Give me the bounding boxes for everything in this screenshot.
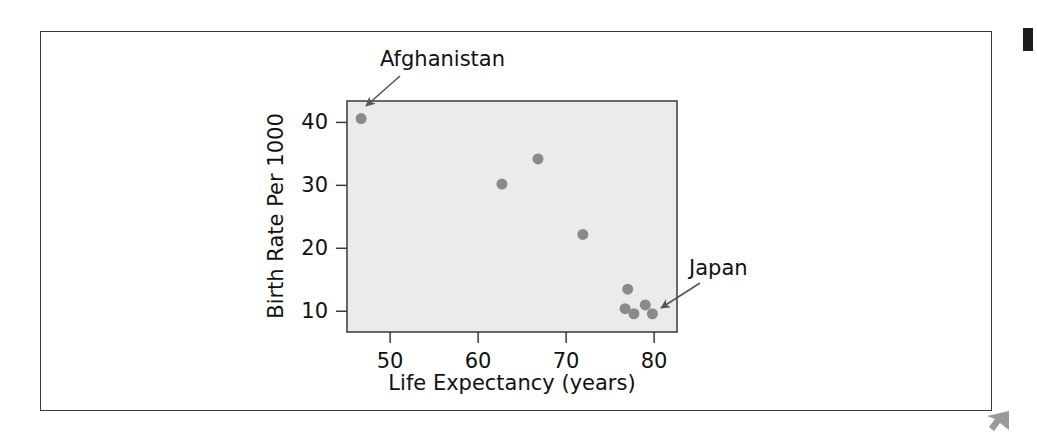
data-point-3 [577, 229, 588, 240]
data-point-afghanistan [356, 113, 367, 124]
y-tick-label-10: 10 [301, 299, 328, 323]
y-axis-ticks [336, 122, 347, 311]
x-tick-label-60: 60 [465, 349, 492, 373]
y-tick-label-40: 40 [301, 110, 328, 134]
annotation-label-japan: Japan [687, 256, 748, 280]
data-point-4 [622, 284, 633, 295]
x-tick-label-50: 50 [377, 349, 404, 373]
x-axis-tick-labels: 50607080 [377, 349, 668, 373]
x-axis-ticks [390, 332, 654, 343]
y-tick-label-20: 20 [301, 236, 328, 260]
data-point-6 [628, 308, 639, 319]
x-axis-title: Life Expectancy (years) [388, 371, 635, 395]
data-point-2 [532, 153, 543, 164]
data-point-1 [496, 179, 507, 190]
data-point-japan [647, 308, 658, 319]
y-axis-title: Birth Rate Per 1000 [264, 113, 288, 319]
y-axis-tick-labels: 10203040 [301, 110, 328, 323]
x-tick-label-70: 70 [553, 349, 580, 373]
y-tick-label-30: 30 [301, 173, 328, 197]
x-tick-label-80: 80 [641, 349, 668, 373]
plot-area-background [347, 101, 677, 332]
data-point-7 [640, 299, 651, 310]
annotation-label-afghanistan: Afghanistan [380, 47, 505, 71]
figure-root: 50607080 10203040 AfghanistanJapan Life … [0, 0, 1037, 435]
scatter-chart: 50607080 10203040 AfghanistanJapan Life … [0, 0, 1037, 435]
